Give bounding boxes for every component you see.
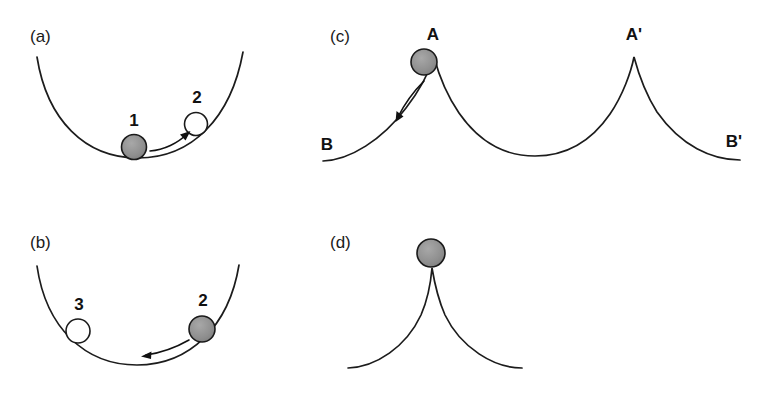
panel-c: (c) A A' B B' xyxy=(321,25,742,161)
panel-a-ball-1-filled xyxy=(122,135,147,160)
panel-c-cycloid-track xyxy=(323,57,740,161)
panel-d-label: (d) xyxy=(330,233,351,252)
panel-a-ball-1-label: 1 xyxy=(129,111,138,130)
panel-b-ball-3-label: 3 xyxy=(74,295,83,314)
panel-b-motion-arrow xyxy=(146,340,189,355)
panel-c-label: (c) xyxy=(330,27,350,46)
panel-c-label-A-prime: A' xyxy=(626,25,642,44)
panel-b-ball-2-label: 2 xyxy=(198,291,207,310)
panel-a-label: (a) xyxy=(30,27,51,46)
panel-c-label-B: B xyxy=(321,135,333,154)
panel-b-ball-2-filled xyxy=(189,316,215,342)
panel-c-label-B-prime: B' xyxy=(726,132,742,151)
panel-c-ball-filled xyxy=(411,49,437,75)
panel-a: (a) 1 2 xyxy=(30,27,243,160)
panel-b-bowl-track xyxy=(37,265,239,365)
panel-d-cycloid-track xyxy=(348,268,522,368)
panel-b-label: (b) xyxy=(30,233,51,252)
panel-d: (d) xyxy=(330,233,522,368)
panel-b-arrow-head-icon xyxy=(141,352,152,360)
panel-d-ball-filled xyxy=(417,239,445,267)
physics-figure: (a) 1 2 (b) 3 2 (c) xyxy=(0,0,771,393)
panel-c-label-A: A xyxy=(427,25,439,44)
panel-a-ball-2-label: 2 xyxy=(192,88,201,107)
panel-b: (b) 3 2 xyxy=(30,233,239,365)
figure-canvas: (a) 1 2 (b) 3 2 (c) xyxy=(0,0,771,393)
panel-b-ball-3-open xyxy=(66,319,90,343)
